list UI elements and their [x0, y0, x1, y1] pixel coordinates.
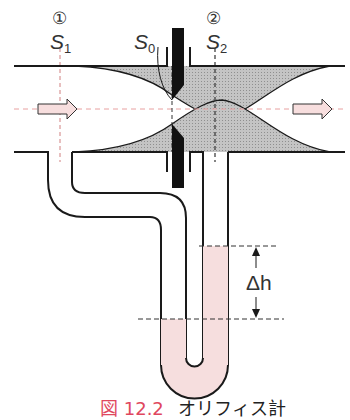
- label-s1-subscript: 1: [64, 41, 71, 56]
- flow-arrow-inlet-icon: [38, 99, 77, 119]
- figure-number: 図 12.2: [100, 398, 164, 419]
- manometer-liquid: [161, 246, 228, 399]
- u-tube-inner: [186, 358, 203, 367]
- delta-h-arrowhead-up: [252, 247, 260, 256]
- figure-caption: 図 12.2オリフィス計: [100, 394, 286, 420]
- label-s2-symbol: S: [206, 30, 220, 53]
- delta-h-arrowhead-down: [252, 309, 260, 318]
- label-s1-symbol: S: [50, 30, 64, 53]
- label-s1: S1: [50, 31, 71, 59]
- label-s0-symbol: S: [134, 30, 148, 53]
- station-1-marker: ①: [52, 10, 67, 27]
- label-s2-subscript: 2: [220, 41, 227, 56]
- station-2-marker: ②: [206, 10, 221, 27]
- label-s0-subscript: 0: [148, 41, 155, 56]
- figure-title: オリフィス計: [178, 398, 286, 419]
- flow-shading-bottom: [75, 100, 330, 152]
- label-s2: S2: [206, 31, 227, 59]
- flow-arrow-outlet-icon: [293, 99, 332, 119]
- pipe-wall-bottom: [14, 152, 161, 365]
- label-s0: S0: [134, 31, 155, 59]
- delta-h-label: Δh: [246, 272, 272, 293]
